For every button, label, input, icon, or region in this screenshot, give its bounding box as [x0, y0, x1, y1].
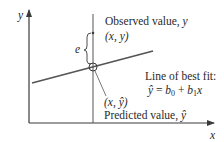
x-axis-label: x [209, 129, 216, 141]
predicted-value-label: Predicted value, ŷ [104, 109, 187, 122]
predicted-point-label: (x, ŷ) [104, 96, 128, 109]
observed-value-label: Observed value, y [105, 15, 189, 28]
predicted-pointer [95, 71, 106, 96]
residual-brace [84, 33, 91, 64]
line-of-best-fit-label: Line of best fit: [145, 70, 216, 82]
observed-point-label: (x, y) [105, 30, 129, 43]
regression-diagram: y x e Observed value, y (x, y) Line of b… [0, 0, 224, 142]
y-axis-label: y [17, 9, 24, 22]
regression-equation: ŷ = b0 + b1x [147, 84, 203, 98]
residual-label: e [75, 43, 80, 55]
observed-point [92, 32, 95, 35]
